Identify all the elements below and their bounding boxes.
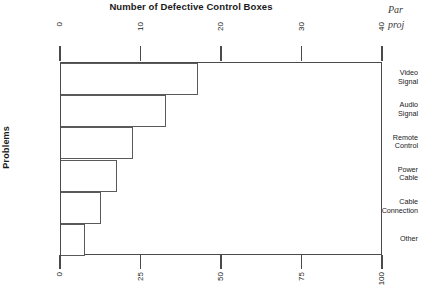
top-axis-tick-label: 30 <box>298 22 306 31</box>
top-axis-tick-label: 0 <box>56 22 64 26</box>
category-label-line-2: Connection <box>362 207 418 216</box>
top-axis-tick <box>301 46 302 61</box>
bottom-axis-tick-label: 100 <box>378 272 386 285</box>
category-label: VideoSignal <box>362 69 418 86</box>
top-axis: 010203040 <box>0 0 422 62</box>
y-axis-title: Problems <box>1 126 11 169</box>
category-label-line-1: Other <box>362 235 418 244</box>
category-label-line-2: Control <box>362 142 418 151</box>
bar <box>61 224 85 256</box>
bottom-axis-tick-label: 75 <box>298 272 306 281</box>
category-label: PowerCable <box>362 166 418 183</box>
top-axis-tick-label: 40 <box>378 22 386 31</box>
bar <box>61 127 133 159</box>
bottom-axis-tick <box>59 255 60 269</box>
bar <box>61 192 101 224</box>
bottom-axis-tick-label: 0 <box>56 272 64 276</box>
plot-area <box>60 62 382 255</box>
top-axis-tick-label: 10 <box>137 22 145 31</box>
top-axis-tick <box>381 46 382 61</box>
top-axis-tick <box>140 46 141 61</box>
bottom-axis-tick <box>381 255 382 269</box>
top-axis-tick-label: 20 <box>217 22 225 31</box>
bar <box>61 63 198 95</box>
bottom-axis-tick <box>140 255 141 269</box>
bar <box>61 95 166 127</box>
bottom-axis: 0255075100 <box>0 255 422 299</box>
category-label: CableConnection <box>362 198 418 215</box>
bottom-axis-tick <box>220 255 221 269</box>
bottom-axis-tick <box>301 255 302 269</box>
top-axis-tick <box>220 46 221 61</box>
bottom-axis-tick-label: 25 <box>137 272 145 281</box>
category-label-line-2: Signal <box>362 78 418 87</box>
bar <box>61 160 117 192</box>
category-label-line-2: Cable <box>362 174 418 183</box>
category-label: AudioSignal <box>362 101 418 118</box>
category-label-line-2: Signal <box>362 110 418 119</box>
top-axis-tick <box>59 46 60 61</box>
category-label: Other <box>362 235 418 244</box>
bottom-axis-tick-label: 50 <box>217 272 225 281</box>
pareto-chart: Number of Defective Control Boxes Par pr… <box>0 0 422 299</box>
category-label: RemoteControl <box>362 134 418 151</box>
